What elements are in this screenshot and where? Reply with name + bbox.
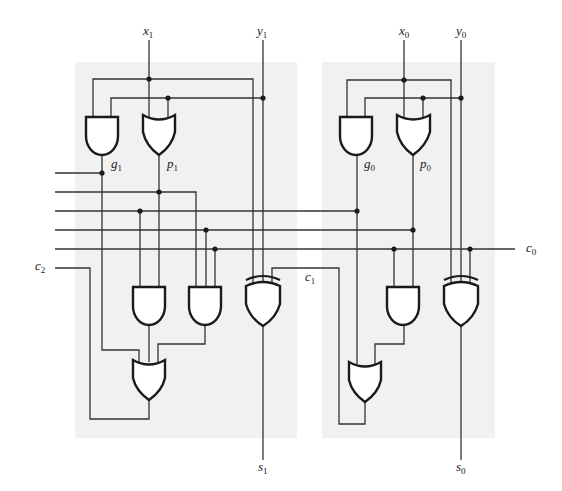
junction-dot	[165, 95, 170, 100]
junction-dot	[391, 246, 396, 251]
junction-dot	[401, 77, 406, 82]
junction-dot	[137, 208, 142, 213]
label-s1: s1	[258, 459, 268, 476]
label-s0: s0	[456, 459, 466, 476]
and-gate-g0	[340, 117, 372, 155]
junction-dot	[212, 246, 217, 251]
circuit-diagram: x1 y1 x0 y0 g1 p1 g0 p0 c0 c1 c2 s1 s0	[0, 0, 562, 491]
and-gate-p1g0	[133, 287, 165, 325]
and-gate-g1	[86, 117, 118, 155]
label-c0: c0	[526, 240, 537, 257]
label-c1: c1	[305, 269, 315, 286]
label-x1: x1	[142, 23, 153, 40]
junction-dot	[467, 246, 472, 251]
and-gate-p0c0	[387, 287, 419, 325]
junction-dot	[146, 76, 151, 81]
junction-dot	[203, 227, 208, 232]
label-y0: y0	[454, 23, 467, 40]
label-x0: x0	[398, 23, 410, 40]
junction-dot	[260, 95, 265, 100]
junction-dot	[410, 227, 415, 232]
junction-dot	[420, 95, 425, 100]
junction-dot	[156, 189, 161, 194]
and-gate-p1p0c0	[189, 287, 221, 325]
junction-dot	[99, 170, 104, 175]
junction-dot	[354, 208, 359, 213]
junction-dot	[458, 95, 463, 100]
label-y1: y1	[255, 23, 267, 40]
label-c2: c2	[35, 258, 45, 275]
